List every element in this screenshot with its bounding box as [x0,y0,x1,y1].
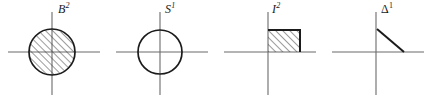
square-hatching [268,30,300,52]
panel-simplex-label: Δ1 [381,2,393,15]
panel-circle-label-exponent: 1 [171,1,175,10]
panel-disk-graphic [0,0,108,103]
panel-simplex: Δ1 [324,0,434,103]
panel-disk: B2 [0,0,108,103]
panel-disk-label-exponent: 2 [66,1,70,10]
panel-simplex-label-exponent: 1 [389,1,393,10]
simplex-segment [377,29,404,52]
panel-disk-label: B2 [58,2,70,15]
topology-spaces-figure: B2 S1 I2 [0,0,434,103]
panel-square: I2 [216,0,324,103]
panel-simplex-graphic [324,0,434,103]
panel-square-label-exponent: 2 [276,1,280,10]
panel-square-label: I2 [272,2,280,15]
panel-circle: S1 [108,0,216,103]
panel-square-graphic [216,0,324,103]
panel-disk-label-symbol: B [58,2,66,16]
panel-circle-graphic [108,0,216,103]
panel-simplex-label-symbol: Δ [381,2,389,16]
panel-circle-label: S1 [165,2,175,15]
